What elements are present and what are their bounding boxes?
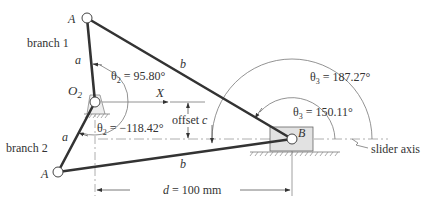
label-theta2-branch2: θ2 = −118.42° <box>97 121 164 137</box>
label-link-a-top: a <box>75 53 81 67</box>
link-b-branch2 <box>58 139 292 172</box>
link-a-branch1 <box>87 18 95 102</box>
label-link-a-bottom: a <box>62 130 68 144</box>
label-branch1: branch 1 <box>27 36 69 50</box>
label-b: B <box>298 126 306 140</box>
slider-crank-diagram: branch 1 branch 2 A A a a b b O2 X B off… <box>0 0 426 208</box>
joint-a-branch2 <box>53 167 63 177</box>
label-slider-axis: slider axis <box>371 142 420 156</box>
label-x-axis: X <box>155 85 165 100</box>
label-a-bottom-point: A <box>40 167 49 181</box>
joint-o2 <box>90 97 100 107</box>
label-theta2-branch1: θ2 = 95.80° <box>111 69 166 85</box>
label-branch2: branch 2 <box>6 141 48 155</box>
label-o2: O2 <box>68 83 82 100</box>
joint-b <box>287 134 297 144</box>
label-a-top-point: A <box>67 12 76 26</box>
slider-axis-leader <box>352 139 368 148</box>
label-offset-c: offset c <box>172 113 208 127</box>
label-link-b-bottom: b <box>180 157 186 171</box>
theta2-branch1-arrow <box>93 64 102 65</box>
label-d-dimension: d = 100 mm <box>163 183 222 197</box>
label-theta3-branch2: θ3 = 187.27° <box>310 70 371 86</box>
slider-ground-hatch <box>250 152 338 156</box>
label-theta3-branch1: θ3 = 150.11° <box>293 105 353 121</box>
label-link-b-top: b <box>180 57 186 71</box>
joint-a-branch1 <box>82 13 92 23</box>
